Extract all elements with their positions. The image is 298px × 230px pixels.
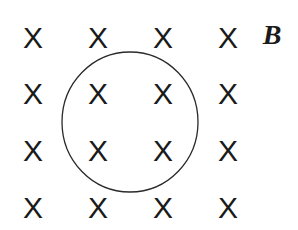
field-into-page-icon: X (213, 23, 243, 53)
field-into-page-icon: X (83, 79, 113, 109)
field-into-page-icon: X (83, 136, 113, 166)
field-into-page-icon: X (83, 193, 113, 223)
field-into-page-icon: X (148, 193, 178, 223)
field-into-page-icon: X (148, 23, 178, 53)
field-into-page-icon: X (213, 136, 243, 166)
magnetic-field-diagram: XXXXXXXXXXXXXXXX B (0, 0, 298, 230)
field-into-page-icon: X (18, 79, 48, 109)
loop-circle (62, 52, 198, 192)
field-into-page-icon: X (18, 23, 48, 53)
field-into-page-icon: X (213, 193, 243, 223)
field-into-page-icon: X (148, 136, 178, 166)
field-into-page-icon: X (18, 136, 48, 166)
field-into-page-icon: X (148, 79, 178, 109)
field-into-page-icon: X (18, 193, 48, 223)
field-into-page-icon: X (213, 79, 243, 109)
magnetic-field-label: B (263, 19, 282, 51)
field-into-page-icon: X (83, 23, 113, 53)
